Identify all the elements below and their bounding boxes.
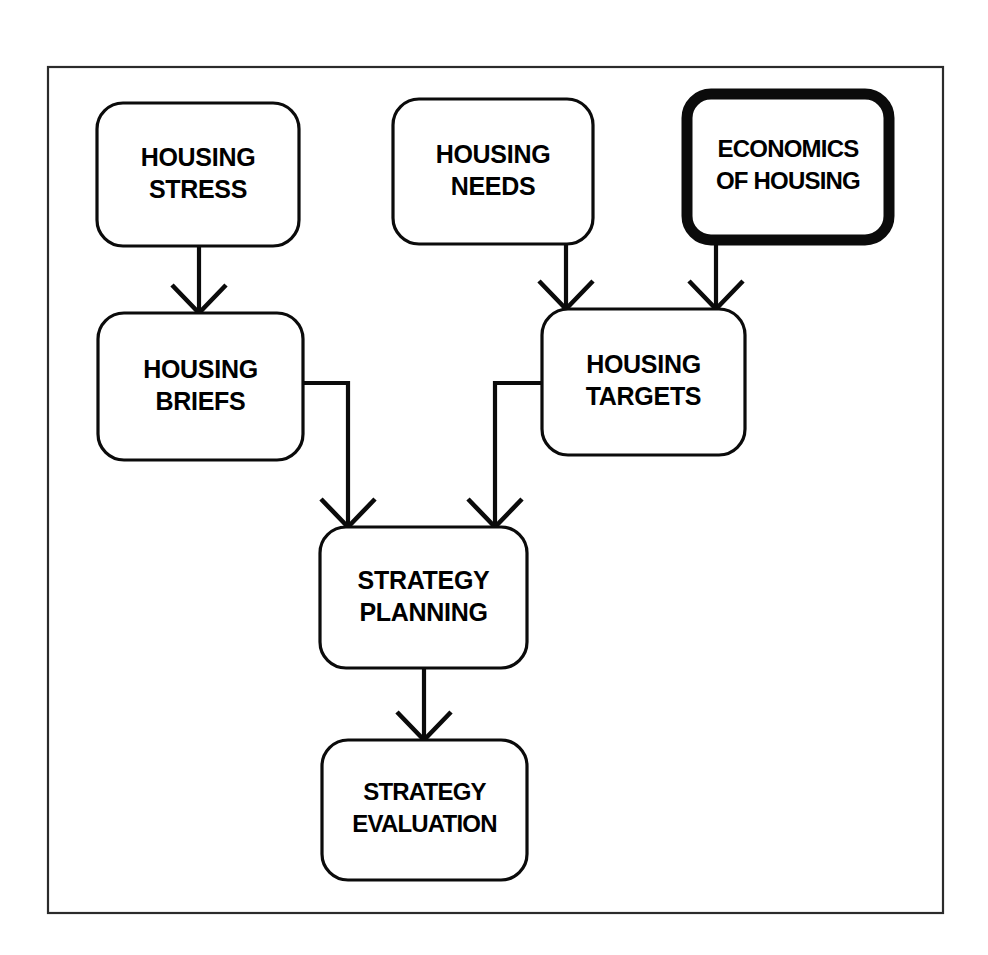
- node-strategy-evaluation[interactable]: STRATEGYEVALUATION: [322, 740, 527, 880]
- node-label-line: STRATEGY: [358, 565, 490, 593]
- node-housing-stress[interactable]: HOUSINGSTRESS: [97, 103, 299, 246]
- connector-briefs-to-planning: [303, 383, 375, 527]
- node-label-line: OF HOUSING: [716, 167, 860, 194]
- node-housing-targets[interactable]: HOUSINGTARGETS: [542, 309, 745, 455]
- node-label-line: STRATEGY: [363, 778, 486, 805]
- node-label-line: HOUSING: [586, 350, 701, 378]
- node-label-line: ECONOMICS: [718, 135, 860, 162]
- node-strategy-planning[interactable]: STRATEGYPLANNING: [320, 527, 527, 668]
- node-label-line: EVALUATION: [352, 810, 496, 837]
- flowchart-canvas: HOUSINGSTRESSHOUSINGNEEDSECONOMICSOF HOU…: [0, 0, 988, 955]
- node-label-line: PLANNING: [359, 597, 487, 625]
- connector-stress-to-briefs: [172, 246, 226, 313]
- node-label-line: STRESS: [149, 174, 247, 202]
- node-housing-needs[interactable]: HOUSINGNEEDS: [393, 99, 593, 244]
- node-housing-briefs[interactable]: HOUSINGBRIEFS: [98, 313, 303, 460]
- node-label-line: HOUSING: [143, 354, 258, 382]
- node-label-line: HOUSING: [436, 139, 551, 167]
- node-label-line: HOUSING: [141, 142, 256, 170]
- node-economics-of-housing[interactable]: ECONOMICSOF HOUSING: [687, 94, 889, 240]
- node-label-line: NEEDS: [451, 171, 536, 199]
- flowchart-diagram: HOUSINGSTRESSHOUSINGNEEDSECONOMICSOF HOU…: [0, 0, 988, 955]
- connector-planning-to-evaluation: [397, 668, 451, 740]
- node-label-line: TARGETS: [586, 382, 702, 410]
- connector-economics-to-targets: [689, 240, 743, 309]
- connector-needs-to-targets: [539, 244, 593, 309]
- connector-targets-to-planning: [468, 383, 542, 527]
- node-label-line: BRIEFS: [156, 386, 246, 414]
